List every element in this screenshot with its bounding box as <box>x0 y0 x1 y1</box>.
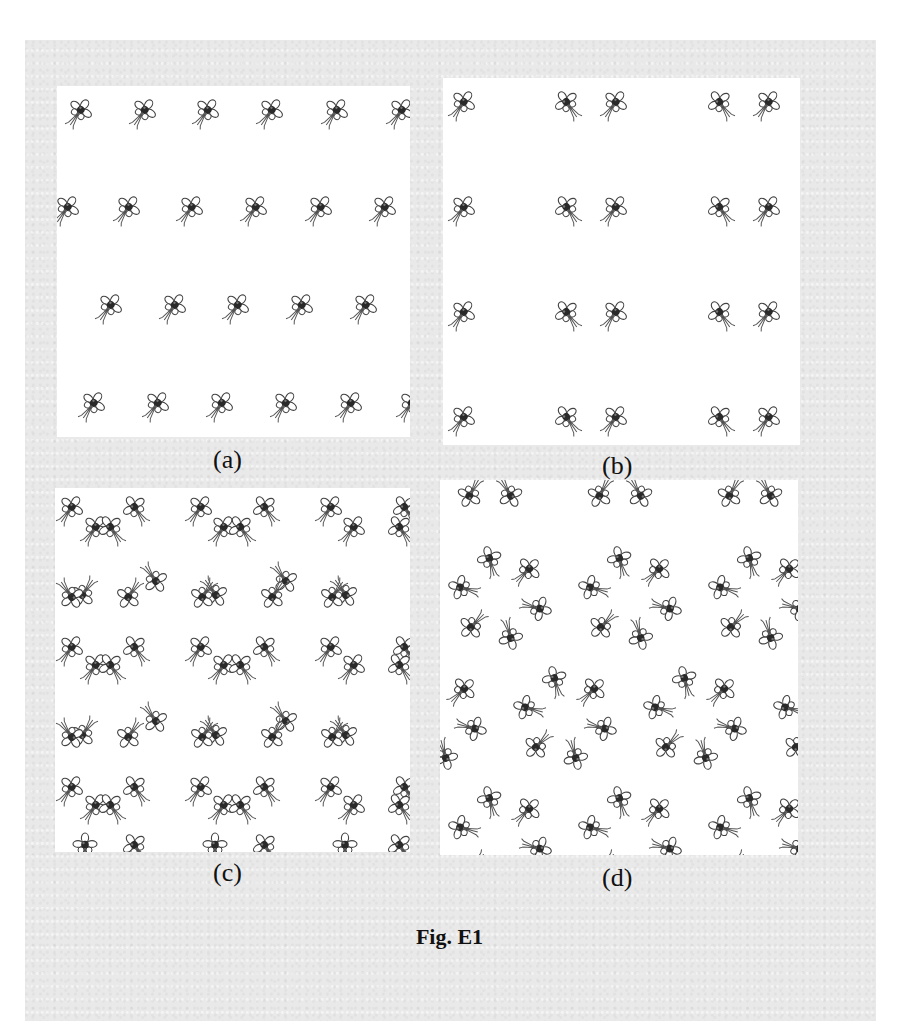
flower-stem-motif-icon <box>559 735 590 772</box>
flower-stem-motif-icon <box>582 712 619 743</box>
flower-stem-motif-icon <box>453 480 490 512</box>
flower-stem-motif-icon <box>452 712 489 743</box>
motif-pattern-a <box>57 86 410 437</box>
panel-c <box>55 488 410 852</box>
flower-stem-motif-icon <box>299 190 337 230</box>
flower-stem-motif-icon <box>777 592 798 623</box>
flower-stem-motif-icon <box>605 784 636 821</box>
panel-label-d: (d) <box>602 865 632 891</box>
flower-stem-motif-icon <box>443 190 480 230</box>
flower-stem-motif-icon <box>594 295 632 335</box>
flower-stem-motif-icon <box>73 833 97 852</box>
flower-stem-motif-icon <box>441 672 481 712</box>
flower-stem-motif-icon <box>713 480 750 512</box>
flower-stem-motif-icon <box>440 735 460 772</box>
flower-stem-motif-icon <box>390 386 410 426</box>
flower-stem-motif-icon <box>179 770 217 810</box>
flower-stem-motif-icon <box>446 573 483 604</box>
flower-stem-motif-icon <box>118 490 156 530</box>
flower-stem-motif-icon <box>701 672 741 712</box>
flower-stem-motif-icon <box>750 480 787 512</box>
flower-stem-motif-icon <box>57 190 84 230</box>
flower-stem-motif-icon <box>550 295 588 335</box>
flower-stem-motif-icon <box>107 190 145 230</box>
flower-stem-motif-icon <box>280 288 318 328</box>
panel-label-b: (b) <box>602 453 632 479</box>
flower-stem-motif-icon <box>583 480 620 512</box>
flower-stem-motif-icon <box>440 664 441 701</box>
panel-label-c: (c) <box>213 860 242 886</box>
flower-stem-motif-icon <box>689 735 720 772</box>
flower-stem-motif-icon <box>179 490 217 530</box>
flower-stem-motif-icon <box>248 770 286 810</box>
flower-stem-motif-icon <box>771 693 798 724</box>
flower-stem-motif-icon <box>380 93 410 133</box>
flower-stem-motif-icon <box>714 844 754 855</box>
flower-stem-motif-icon <box>112 574 150 614</box>
flower-stem-motif-icon <box>475 784 506 821</box>
flower-stem-motif-icon <box>203 833 227 852</box>
flower-stem-motif-icon <box>179 630 217 670</box>
flower-stem-motif-icon <box>777 832 798 855</box>
flower-stem-motif-icon <box>309 770 347 810</box>
flower-stem-motif-icon <box>605 544 636 581</box>
flower-stem-motif-icon <box>779 724 798 764</box>
flower-stem-motif-icon <box>641 693 678 724</box>
flower-stem-motif-icon <box>747 295 785 335</box>
flower-stem-motif-icon <box>248 630 286 670</box>
flower-stem-motif-icon <box>136 386 174 426</box>
flower-stem-motif-icon <box>550 400 588 440</box>
flower-stem-motif-icon <box>118 630 156 670</box>
flower-stem-motif-icon <box>494 615 525 652</box>
flower-stem-motif-icon <box>490 480 527 512</box>
flower-stem-motif-icon <box>703 85 741 125</box>
flower-stem-motif-icon <box>443 400 480 440</box>
flower-stem-motif-icon <box>112 714 150 754</box>
flower-stem-motif-icon <box>747 400 785 440</box>
flower-stem-motif-icon <box>511 693 548 724</box>
flower-stem-motif-icon <box>315 93 353 133</box>
panel-label-a: (a) <box>213 447 242 473</box>
figure-caption: Fig. E1 <box>0 924 899 950</box>
flower-stem-motif-icon <box>443 295 480 335</box>
flower-stem-motif-icon <box>584 604 624 644</box>
panel-b <box>443 78 800 445</box>
flower-stem-motif-icon <box>571 672 611 712</box>
flower-stem-motif-icon <box>540 664 571 701</box>
panel-d <box>440 480 798 855</box>
flower-stem-motif-icon <box>706 813 743 844</box>
flower-stem-motif-icon <box>118 770 156 810</box>
flower-stem-motif-icon <box>55 630 88 670</box>
flower-stem-motif-icon <box>766 552 798 592</box>
flower-stem-motif-icon <box>576 573 613 604</box>
flower-stem-motif-icon <box>170 190 208 230</box>
flower-stem-motif-icon <box>647 592 684 623</box>
flower-stem-motif-icon <box>517 832 554 855</box>
flower-stem-motif-icon <box>94 510 132 550</box>
flower-stem-motif-icon <box>200 386 238 426</box>
flower-stem-motif-icon <box>714 604 754 644</box>
flower-stem-motif-icon <box>216 288 254 328</box>
flower-stem-motif-icon <box>550 190 588 230</box>
panel-a <box>57 86 410 437</box>
flower-stem-motif-icon <box>703 400 741 440</box>
flower-stem-motif-icon <box>754 615 785 652</box>
flower-stem-motif-icon <box>624 615 655 652</box>
flower-stem-motif-icon <box>329 386 367 426</box>
flower-stem-motif-icon <box>735 544 766 581</box>
flower-stem-motif-icon <box>248 490 286 530</box>
flower-stem-motif-icon <box>443 85 480 125</box>
flower-stem-motif-icon <box>584 844 624 855</box>
flower-stem-motif-icon <box>333 833 357 852</box>
flower-stem-motif-icon <box>383 828 410 852</box>
flower-stem-motif-icon <box>747 190 785 230</box>
flower-stem-motif-icon <box>735 784 766 821</box>
motif-pattern-b <box>443 78 800 445</box>
flower-stem-motif-icon <box>519 724 559 764</box>
flower-stem-motif-icon <box>89 288 127 328</box>
flower-stem-motif-icon <box>454 844 494 855</box>
flower-stem-motif-icon <box>248 828 286 852</box>
flower-stem-motif-icon <box>517 592 554 623</box>
flower-stem-motif-icon <box>332 510 370 550</box>
flower-stem-motif-icon <box>309 630 347 670</box>
